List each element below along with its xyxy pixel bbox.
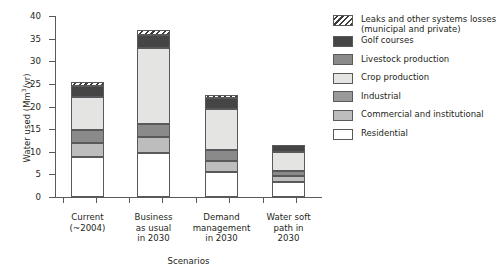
bar-segment-livestock [272, 171, 305, 176]
legend-label-line: Leaks and other systems losses [361, 14, 496, 24]
legend-label-line: (municipal and private) [361, 24, 496, 34]
legend-label-line: Crop production [361, 72, 429, 82]
legend-swatch-industrial-icon [333, 91, 353, 102]
y-tick-mark: 10 [49, 152, 55, 153]
legend-label-line: Golf courses [361, 35, 414, 45]
legend-swatch-golf-icon [333, 36, 353, 47]
legend-label-line: Livestock production [361, 54, 449, 64]
y-axis-title-superscript: 3 [20, 88, 27, 92]
legend-label-golf: Golf courses [361, 35, 414, 45]
y-tick-mark: 15 [49, 129, 55, 130]
x-category-label-line: Water soft [241, 212, 337, 223]
bar-segment-golf [137, 35, 170, 48]
legend-swatch-commercial-icon [333, 110, 353, 121]
plot-area: 0510152025303540 Current(~2004)Businessa… [55, 16, 321, 197]
legend-item-golf[interactable]: Golf courses [333, 35, 414, 47]
bar-segment-golf [71, 86, 104, 98]
y-tick-label: 5 [36, 169, 41, 179]
legend-item-leaks[interactable]: Leaks and other systems losses(municipal… [333, 14, 496, 35]
x-tick-mark [196, 197, 197, 203]
y-tick-mark: 25 [49, 84, 55, 85]
bar-segment-residential [205, 172, 238, 197]
y-axis-line [55, 16, 56, 198]
bar-segment-commercial [205, 161, 238, 172]
y-tick-label: 40 [30, 11, 41, 21]
legend-swatch-leaks-icon [333, 15, 353, 26]
legend-label-residential: Residential [361, 128, 408, 138]
legend-swatch-residential-icon [333, 129, 353, 140]
legend-label-industrial: Industrial [361, 91, 401, 101]
bar-segment-crop [71, 97, 104, 129]
legend-swatch-crop-icon [333, 73, 353, 84]
legend-item-commercial[interactable]: Commercial and institutional [333, 109, 484, 121]
bar-segment-crop [272, 152, 305, 171]
legend-label-line: Commercial and institutional [361, 109, 484, 119]
x-tick-mark [162, 197, 163, 203]
y-tick-mark: 35 [49, 39, 55, 40]
x-category-label-line: 2030 [241, 233, 337, 244]
bar-segment-livestock [137, 124, 170, 137]
bar-segment-leaks [137, 30, 170, 35]
bar-segment-crop [137, 48, 170, 124]
legend-label-line: Industrial [361, 91, 401, 101]
bar-segment-commercial [71, 143, 104, 157]
x-axis-title: Scenarios [55, 256, 322, 266]
x-tick-mark [63, 197, 64, 203]
y-tick-mark: 30 [49, 61, 55, 62]
bar-segment-livestock [71, 130, 104, 143]
y-tick-mark: 0 [49, 197, 55, 198]
legend-item-crop[interactable]: Crop production [333, 72, 429, 84]
legend-item-livestock[interactable]: Livestock production [333, 54, 449, 66]
x-category-label-line: path in [241, 223, 337, 234]
legend-item-industrial[interactable]: Industrial [333, 91, 401, 103]
bar-segment-livestock [205, 150, 238, 160]
bar-segment-golf [272, 145, 305, 152]
x-tick-mark [229, 197, 230, 203]
y-tick-label: 15 [30, 124, 41, 134]
bar-segment-commercial [272, 176, 305, 182]
y-tick-label: 35 [30, 34, 41, 44]
bar-segment-crop [205, 109, 238, 150]
x-tick-mark [296, 197, 297, 203]
legend-label-leaks: Leaks and other systems losses(municipal… [361, 14, 496, 35]
legend-swatch-livestock-icon [333, 54, 353, 65]
y-tick-label: 30 [30, 56, 41, 66]
bar-segment-commercial [137, 137, 170, 153]
legend-label-crop: Crop production [361, 72, 429, 82]
x-tick-mark [96, 197, 97, 203]
legend-label-livestock: Livestock production [361, 54, 449, 64]
legend-item-residential[interactable]: Residential [333, 128, 408, 140]
bar-segment-golf [205, 98, 238, 109]
y-tick-mark: 5 [49, 174, 55, 175]
legend-label-commercial: Commercial and institutional [361, 109, 484, 119]
y-tick-mark: 20 [49, 107, 55, 108]
y-tick-label: 25 [30, 79, 41, 89]
y-tick-label: 20 [30, 102, 41, 112]
bar-segment-residential [272, 182, 305, 197]
bar-segment-residential [137, 153, 170, 197]
y-tick-mark: 40 [49, 16, 55, 17]
bar-segment-leaks [205, 95, 238, 98]
y-tick-label: 10 [30, 147, 41, 157]
x-tick-mark [129, 197, 130, 203]
x-category-label-4: Water softpath in2030 [241, 212, 337, 244]
legend-label-line: Residential [361, 128, 408, 138]
y-tick-label: 0 [36, 192, 41, 202]
x-tick-mark [263, 197, 264, 203]
bar-segment-leaks [71, 82, 104, 86]
bar-segment-residential [71, 157, 104, 197]
